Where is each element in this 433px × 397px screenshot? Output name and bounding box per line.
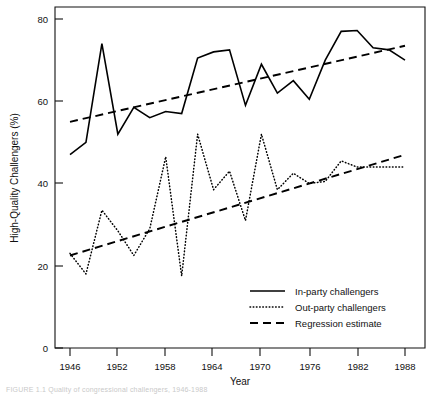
y-tick-label-20: 20 (37, 261, 48, 272)
y-tick-label-40: 40 (37, 178, 48, 189)
legend-label-regression: Regression estimate (295, 318, 382, 329)
x-tick-label-1964: 1964 (201, 361, 222, 372)
x-tick-label-1952: 1952 (106, 361, 127, 372)
series-regression-in-party (70, 46, 405, 122)
figure-root: 80 60 40 20 0 High-Quality Challengers (… (0, 0, 433, 397)
chart-canvas: 80 60 40 20 0 High-Quality Challengers (… (0, 0, 433, 397)
x-tick-label-1988: 1988 (394, 361, 415, 372)
y-axis-title: High-Quality Challengers (%) (9, 113, 20, 243)
y-tick-label-60: 60 (37, 96, 48, 107)
x-axis-ticks (70, 348, 405, 356)
x-axis-labels: 1946 1952 1958 1964 1970 1976 1982 1988 (59, 361, 415, 372)
x-axis-title: Year (230, 376, 251, 387)
y-axis-ticks (55, 19, 63, 348)
legend-label-out-party: Out-party challengers (295, 302, 386, 313)
x-tick-label-1946: 1946 (59, 361, 80, 372)
y-tick-label-80: 80 (37, 14, 48, 25)
legend-label-in-party: In-party challengers (295, 286, 379, 297)
y-axis-labels: 80 60 40 20 0 (37, 14, 48, 354)
x-tick-label-1982: 1982 (347, 361, 368, 372)
plot-frame (55, 7, 425, 348)
series-regression-out-party (70, 155, 405, 256)
x-tick-label-1970: 1970 (249, 361, 270, 372)
x-tick-label-1958: 1958 (154, 361, 175, 372)
y-tick-label-0: 0 (43, 343, 48, 354)
figure-caption: FIGURE 1.1 Quality of congressional chal… (6, 386, 207, 393)
series-in-party-challengers (70, 31, 405, 155)
x-tick-label-1976: 1976 (299, 361, 320, 372)
chart-legend: In-party challengers Out-party challenge… (250, 286, 386, 329)
